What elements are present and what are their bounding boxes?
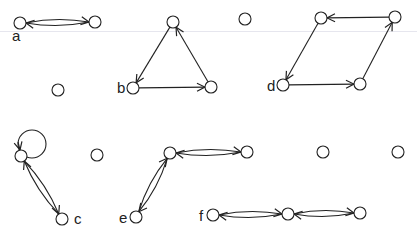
directed-edge-b <box>139 87 205 88</box>
directed-edge-d <box>327 17 389 18</box>
directed-edge-b <box>136 27 170 83</box>
graph-node-b <box>127 82 139 94</box>
directed-edge-b <box>176 27 208 82</box>
nodes-layer <box>14 11 404 225</box>
graph-label-a: a <box>12 27 21 44</box>
directed-edge-e <box>139 158 167 211</box>
graph-node-a <box>89 16 101 28</box>
graph-label-e: e <box>119 209 127 226</box>
directed-edge-f <box>219 211 282 214</box>
directed-edge-c <box>24 161 58 214</box>
edges-layer <box>18 17 392 217</box>
graph-label-b: b <box>117 79 125 96</box>
directed-edge-d <box>286 23 318 80</box>
isolated-node <box>52 84 64 96</box>
graph-node-b <box>167 16 179 28</box>
directed-edge-e <box>176 149 241 152</box>
graph-diagram: abdcef <box>0 0 417 237</box>
isolated-node <box>91 149 103 161</box>
isolated-node <box>392 146 404 158</box>
directed-edge-d <box>289 84 354 85</box>
graph-node-e <box>130 211 142 223</box>
graph-node-c <box>56 213 68 225</box>
isolated-node <box>317 146 329 158</box>
graph-node-d <box>389 11 401 23</box>
graph-label-d: d <box>267 77 275 94</box>
graph-node-e <box>164 147 176 159</box>
directed-edge-c <box>24 161 58 214</box>
directed-edge-f <box>294 213 354 216</box>
graph-node-d <box>354 78 366 90</box>
graph-node-f <box>282 208 294 220</box>
graph-node-d <box>277 79 289 91</box>
graph-node-e <box>241 146 253 158</box>
directed-edge-e <box>176 152 241 155</box>
graph-label-f: f <box>199 207 204 224</box>
directed-edge-e <box>139 158 167 211</box>
graph-node-d <box>315 12 327 24</box>
directed-edge-f <box>294 210 354 213</box>
directed-edge-a <box>26 19 89 22</box>
graph-node-f <box>354 207 366 219</box>
directed-edge-f <box>219 214 282 217</box>
graph-node-c <box>15 150 27 162</box>
graph-node-f <box>207 209 219 221</box>
directed-edge-a <box>26 22 89 25</box>
directed-edge-d <box>363 22 392 78</box>
graph-label-c: c <box>74 210 82 227</box>
isolated-node <box>239 13 251 25</box>
graph-node-b <box>205 81 217 93</box>
